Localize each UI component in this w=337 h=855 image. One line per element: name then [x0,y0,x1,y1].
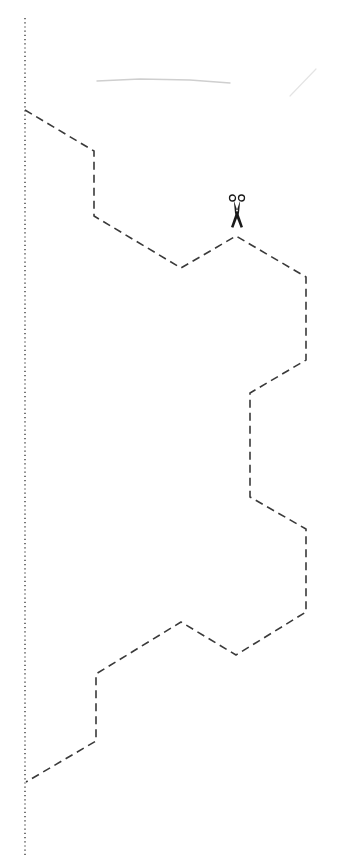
scissors-icon [230,195,245,228]
paper-smudge [97,79,230,83]
paper-smudge [290,69,316,96]
cut-line [25,110,306,782]
cutout-template [0,0,337,855]
